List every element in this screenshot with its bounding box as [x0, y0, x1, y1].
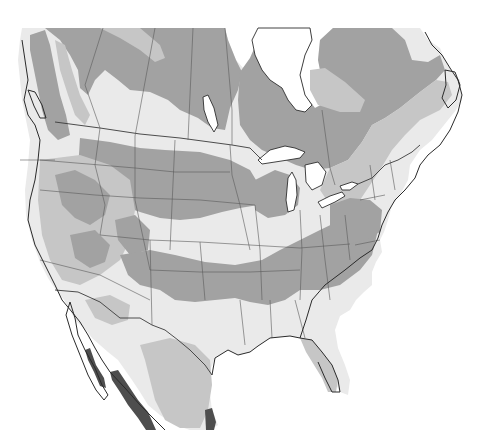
- zone-mexico-plateau: [140, 338, 212, 428]
- map-canvas: [0, 0, 491, 439]
- north-america-zone-map: [0, 0, 491, 439]
- zone-dark-east-mexico: [205, 408, 216, 430]
